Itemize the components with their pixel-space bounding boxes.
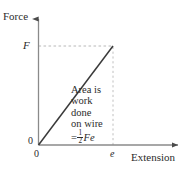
- formula-expression: Fe: [84, 132, 95, 143]
- origin-label-on-y-axis: 0: [28, 136, 33, 146]
- annotation-line-1: Area is: [71, 84, 103, 95]
- x-axis-tick-label-e: e: [110, 149, 114, 159]
- annotation-line-3: done: [71, 107, 103, 118]
- area-annotation: Area is work done on wire =12Fe: [71, 84, 103, 145]
- x-axis-label: Extension: [131, 152, 175, 163]
- annotation-formula: =12Fe: [71, 130, 103, 146]
- fraction-numerator: 1: [77, 130, 83, 137]
- formula-equals-sign: =: [71, 132, 77, 143]
- annotation-line-2: work: [71, 95, 103, 106]
- force-extension-graph: Force Extension F e 0 0 Area is work don…: [0, 0, 193, 170]
- origin-label-on-x-axis: 0: [34, 149, 39, 159]
- fraction-denominator: 2: [77, 137, 83, 145]
- y-axis-tick-label-F: F: [23, 40, 30, 51]
- formula-fraction-one-half: 12: [77, 130, 83, 146]
- y-axis-label: Force: [3, 11, 28, 22]
- annotation-line-4: on wire: [71, 118, 103, 129]
